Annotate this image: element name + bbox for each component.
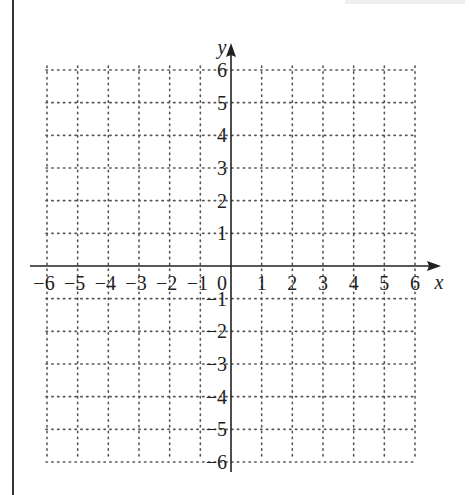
y-tick-label: −2: [206, 320, 227, 342]
x-axis-arrow-icon: [427, 261, 441, 271]
x-tick-label: 3: [318, 272, 328, 294]
tick-labels: −6−5−4−3−2−11234560−6−5−4−3−2−1123456xy: [33, 36, 443, 473]
y-tick-label: 2: [217, 190, 227, 212]
x-tick-label: −5: [64, 272, 85, 294]
y-tick-label: 6: [217, 59, 227, 81]
x-tick-label: −2: [156, 272, 177, 294]
axes: [30, 43, 441, 472]
x-tick-label: −4: [95, 272, 116, 294]
y-tick-label: 1: [217, 222, 227, 244]
x-tick-label: −3: [125, 272, 146, 294]
y-tick-label: 3: [217, 157, 227, 179]
y-tick-label: −3: [206, 353, 227, 375]
x-axis-name: x: [434, 271, 444, 293]
y-tick-label: 4: [217, 124, 227, 146]
x-tick-label: 5: [379, 272, 389, 294]
y-tick-label: −1: [206, 288, 227, 310]
y-tick-label: −6: [206, 451, 227, 473]
y-axis-name: y: [216, 36, 227, 59]
y-tick-label: 5: [217, 92, 227, 114]
y-axis-arrow-icon: [226, 43, 236, 57]
y-tick-label: −5: [206, 418, 227, 440]
x-tick-label: 1: [257, 272, 267, 294]
coordinate-grid-diagram: −6−5−4−3−2−11234560−6−5−4−3−2−1123456xy: [0, 0, 469, 495]
x-tick-label: −6: [33, 272, 54, 294]
x-tick-label: 6: [410, 272, 420, 294]
x-tick-label: 4: [349, 272, 359, 294]
y-tick-label: −4: [206, 386, 227, 408]
top-edge-band: [345, 0, 465, 4]
x-tick-label: 2: [287, 272, 297, 294]
